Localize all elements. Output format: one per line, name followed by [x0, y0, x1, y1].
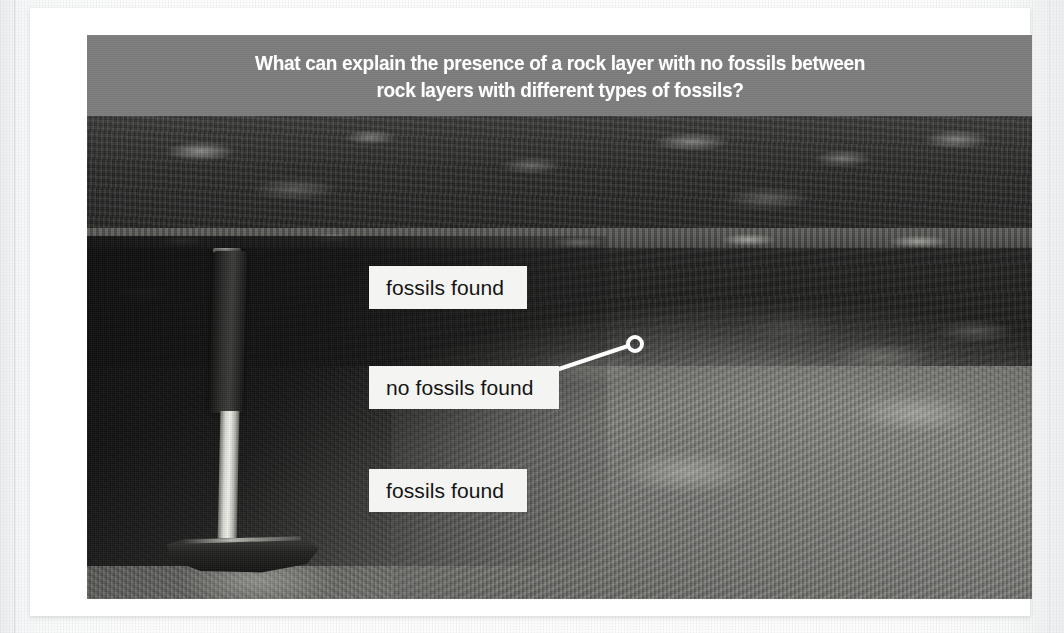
- rock-layer-upper: [87, 116, 1032, 234]
- hammer-shaft: [218, 411, 240, 544]
- outcrop-photograph: fossils found no fossils found fossils f…: [87, 116, 1032, 599]
- hammer-grip: [209, 251, 248, 413]
- label-fossils-found-lower: fossils found: [369, 469, 527, 512]
- question-text: What can explain the presence of a rock …: [254, 49, 864, 103]
- label-fossils-found-upper: fossils found: [369, 266, 527, 309]
- question-header-band: What can explain the presence of a rock …: [87, 35, 1032, 116]
- rock-hammer: [159, 246, 339, 596]
- page-gutter-line-right: [1049, 0, 1050, 633]
- page-gutter-line-left: [14, 0, 15, 633]
- label-text: no fossils found: [386, 376, 534, 400]
- figure-card: What can explain the presence of a rock …: [30, 8, 1030, 616]
- label-text: fossils found: [386, 479, 504, 503]
- label-no-fossils-found-middle: no fossils found: [369, 366, 559, 409]
- label-text: fossils found: [386, 276, 504, 300]
